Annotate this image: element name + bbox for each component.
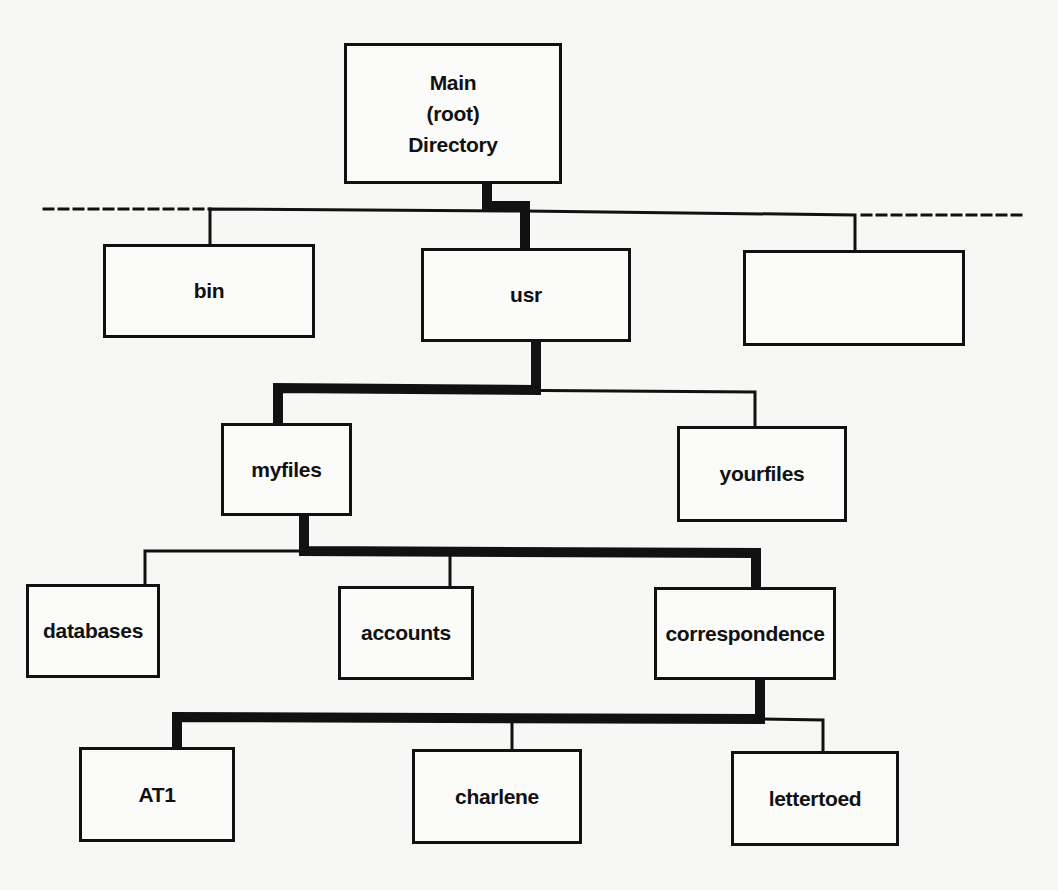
accounts-node: accounts bbox=[338, 586, 474, 680]
node-label: charlene bbox=[455, 785, 539, 809]
correspondence-branch-right bbox=[758, 719, 823, 753]
node-label: usr bbox=[510, 283, 542, 307]
node-label-line: Main bbox=[430, 67, 477, 98]
usr-branch-line bbox=[458, 390, 755, 428]
usr-node: usr bbox=[421, 248, 631, 342]
root-directory-node: Main (root) Directory bbox=[344, 43, 562, 184]
databases-node: databases bbox=[26, 584, 160, 678]
node-label-line: (root) bbox=[426, 98, 479, 129]
lettertoed-node: lettertoed bbox=[731, 751, 899, 846]
node-label: AT1 bbox=[138, 783, 175, 807]
highlight-myfiles-to-correspondence bbox=[304, 512, 756, 590]
highlight-correspondence-to-at1 bbox=[177, 675, 760, 750]
highlight-root-to-usr bbox=[487, 182, 525, 248]
bin-node: bin bbox=[103, 244, 315, 338]
unnamed-node bbox=[743, 250, 965, 346]
node-label-line: Directory bbox=[408, 129, 498, 160]
node-label: yourfiles bbox=[720, 462, 805, 486]
node-label: bin bbox=[194, 279, 225, 303]
highlight-usr-to-myfiles bbox=[278, 340, 536, 425]
correspondence-node: correspondence bbox=[654, 587, 836, 680]
at1-node: AT1 bbox=[79, 747, 235, 842]
charlene-node: charlene bbox=[412, 749, 582, 844]
myfiles-branch-left bbox=[145, 551, 304, 587]
node-label: correspondence bbox=[665, 622, 824, 646]
node-label: myfiles bbox=[251, 458, 321, 482]
node-label: databases bbox=[43, 619, 143, 643]
node-label: accounts bbox=[361, 621, 451, 645]
myfiles-node: myfiles bbox=[221, 423, 352, 516]
yourfiles-node: yourfiles bbox=[677, 426, 847, 522]
node-label: lettertoed bbox=[769, 787, 862, 811]
